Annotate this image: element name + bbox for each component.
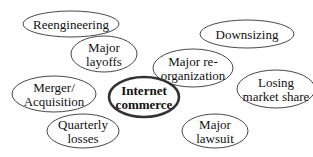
node-internet-commerce: Internetcommerce	[109, 77, 179, 117]
node-label: organization	[161, 68, 226, 83]
node-label: losses	[67, 131, 98, 146]
node-losing-market-share: Losingmarket share	[237, 70, 313, 108]
node-label: Reengineering	[33, 17, 109, 32]
node-downsizing: Downsizing	[200, 20, 294, 48]
node-major-lawsuit: Majorlawsuit	[182, 114, 248, 148]
node-label: Losing	[258, 75, 295, 90]
node-label: Merger/	[33, 80, 75, 95]
node-merger-acquisition: Merger/Acquisition	[12, 76, 96, 112]
node-label: Quarterly	[58, 117, 108, 132]
node-label: Major re-	[168, 54, 217, 69]
node-label: Acquisition	[24, 94, 85, 109]
node-label: market share	[243, 89, 310, 104]
node-label: commerce	[116, 97, 173, 112]
node-label: Major	[199, 117, 231, 132]
node-label: layoffs	[86, 54, 122, 69]
node-label: Downsizing	[216, 27, 279, 42]
node-label: Internet	[121, 83, 167, 98]
node-label: lawsuit	[196, 131, 234, 146]
node-major-layoffs: Majorlayoffs	[71, 36, 137, 72]
concept-diagram: ReengineeringMajorlayoffsDownsizingMajor…	[0, 0, 313, 157]
node-label: Major	[88, 40, 120, 55]
node-quarterly-losses: Quarterlylosses	[47, 114, 119, 148]
node-reengineering: Reengineering	[23, 11, 119, 37]
